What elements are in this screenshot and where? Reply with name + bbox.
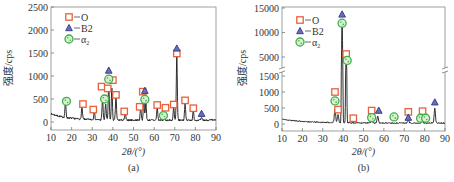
o-phase-marker (190, 105, 196, 111)
alpha2-phase-marker (159, 112, 167, 120)
x-tick-label: 60 (379, 133, 389, 144)
b2-phase-marker (297, 28, 304, 34)
y-tick-label: 1000 (28, 71, 48, 82)
o-phase-marker (121, 108, 127, 114)
o-phase-marker (332, 89, 338, 95)
o-phase-marker (419, 108, 425, 114)
b2-phase-marker (432, 99, 439, 105)
y-tick-label: 1500 (259, 71, 279, 82)
legend-label: O (312, 15, 319, 26)
y-tick-label: 0 (274, 119, 279, 130)
y-tick-label: 10000 (254, 27, 279, 38)
panel-label: (b) (358, 162, 370, 174)
x-tick-label: 80 (190, 132, 200, 143)
o-phase-marker (171, 101, 177, 107)
y-tick-label: 500 (264, 103, 279, 114)
y-tick-label: 2500 (28, 2, 48, 13)
b2-phase-marker (174, 45, 181, 51)
x-tick-label: 90 (211, 132, 221, 143)
o-phase-marker (80, 101, 86, 107)
y-axis-label: 强度/cps (2, 50, 14, 86)
chart-panel-b: 0500100015005000100001500010203040506070… (236, 3, 450, 175)
y-tick-label: 1500 (28, 48, 48, 59)
x-tick-label: 30 (87, 132, 97, 143)
y-tick-label: 2000 (28, 25, 48, 36)
b2-phase-marker (375, 107, 382, 113)
legend: OB2α2 (65, 12, 93, 46)
y-tick-label: 0 (43, 117, 48, 128)
x-tick-label: 10 (277, 133, 287, 144)
panel-label: (a) (128, 162, 139, 174)
b2-phase-marker (105, 67, 112, 73)
alpha2-phase-marker (105, 75, 113, 83)
y-tick-label: 5000 (259, 52, 279, 63)
x-tick-label: 20 (67, 132, 77, 143)
legend-label: O (81, 12, 88, 23)
legend-label: B2 (81, 23, 93, 34)
alpha2-phase-marker (62, 97, 70, 105)
o-phase-marker (162, 105, 168, 111)
alpha2-phase-marker (343, 56, 351, 64)
o-phase-marker (90, 106, 96, 112)
legend: OB2α2 (296, 15, 324, 49)
y-axis-label: 强度/cps (236, 50, 248, 86)
alpha2-phase-marker (390, 113, 398, 121)
x-axis-label: 2θ/(°) (352, 146, 376, 158)
b2-phase-marker (66, 25, 73, 31)
o-phase-marker (297, 17, 303, 23)
xrd-figure: 05001000150020002500102030405060708090OB… (0, 0, 454, 182)
o-phase-marker (105, 85, 111, 91)
x-tick-label: 40 (338, 133, 348, 144)
o-phase-marker (66, 14, 72, 20)
x-tick-label: 10 (46, 132, 56, 143)
alpha2-phase-marker (338, 19, 346, 27)
alpha2-phase-marker (368, 114, 376, 122)
x-tick-label: 70 (399, 133, 409, 144)
o-phase-marker (154, 102, 160, 108)
y-tick-label: 1000 (259, 87, 279, 98)
legend-label: B2 (312, 26, 324, 37)
alpha2-phase-marker (422, 114, 430, 122)
y-tick-label: 15000 (254, 3, 279, 14)
x-axis-label: 2θ/(°) (122, 146, 146, 158)
alpha2-phase-marker (65, 35, 73, 43)
o-phase-marker (182, 97, 188, 103)
x-tick-label: 60 (149, 132, 159, 143)
b2-phase-marker (198, 110, 205, 116)
chart-panel-a: 05001000150020002500102030405060708090OB… (2, 2, 221, 175)
o-phase-marker (113, 92, 119, 98)
x-tick-label: 50 (359, 133, 369, 144)
o-phase-marker (136, 104, 142, 110)
o-phase-marker (350, 115, 356, 121)
x-tick-label: 50 (129, 132, 139, 143)
x-tick-label: 80 (420, 133, 430, 144)
b2-phase-marker (339, 11, 346, 17)
x-tick-label: 30 (318, 133, 328, 144)
alpha2-phase-marker (141, 95, 149, 103)
alpha2-phase-marker (296, 38, 304, 46)
alpha2-phase-marker (331, 97, 339, 105)
legend-label: α2 (312, 37, 320, 49)
o-phase-marker (368, 107, 374, 113)
x-tick-label: 20 (297, 133, 307, 144)
legend-label: α2 (81, 34, 89, 46)
x-tick-label: 90 (440, 133, 450, 144)
y-tick-label: 500 (33, 94, 48, 105)
alpha2-phase-marker (101, 95, 109, 103)
x-tick-label: 70 (170, 132, 180, 143)
o-phase-marker (98, 83, 104, 89)
o-phase-marker (335, 106, 341, 112)
x-tick-label: 40 (108, 132, 118, 143)
